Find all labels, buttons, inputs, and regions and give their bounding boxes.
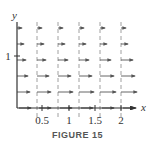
x-tick-label: 1.5: [88, 114, 102, 126]
x-tick-label: 2: [118, 114, 124, 126]
figure-caption: FIGURE 15: [52, 130, 103, 140]
dashed-grid-lines: [37, 22, 121, 118]
x-axis-label: x: [140, 101, 146, 113]
direction-field-diagram: 0.511.52 1 y x FIGURE 15: [0, 0, 160, 145]
y-axis-label: y: [11, 9, 17, 21]
y-tick-label: 1: [5, 50, 11, 62]
x-tick-label: 0.5: [35, 114, 49, 126]
vector-arrows: [17, 28, 137, 108]
x-tick-label: 1: [66, 114, 72, 126]
